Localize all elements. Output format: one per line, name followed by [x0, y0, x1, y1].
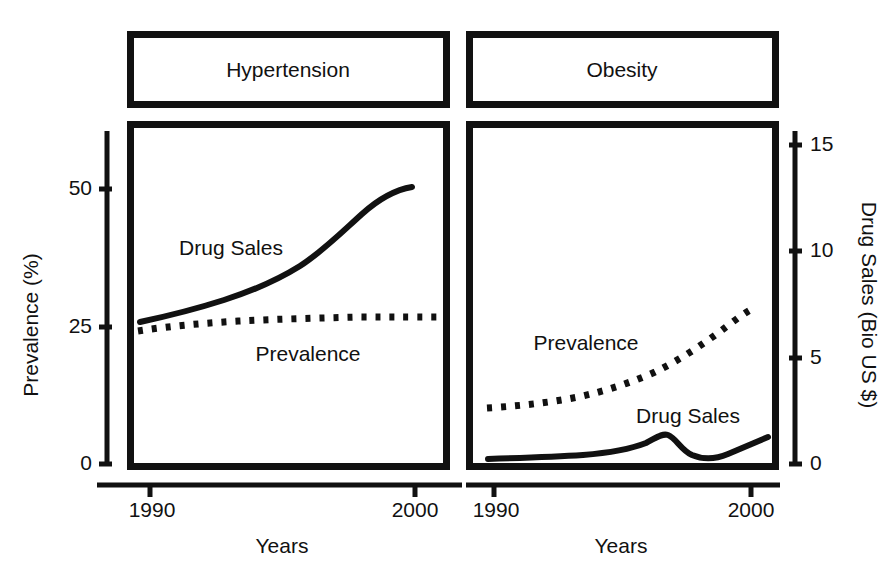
panel-obesity: Obesity 15 10 5 0 Drug Sales (Bio US $) … — [466, 35, 881, 558]
x-axis-title-obesity: Years — [595, 534, 648, 557]
series-annotation-drug-sales-obesity: Drug Sales — [636, 404, 740, 427]
series-annotation-prevalence-obesity: Prevalence — [533, 331, 638, 354]
x-axis-title-hypertension: Years — [256, 534, 309, 557]
panel-title-hypertension: Hypertension — [226, 58, 350, 81]
plot-frame-hypertension — [131, 125, 447, 467]
x-tick-label-1990-right: 1990 — [473, 498, 520, 521]
series-annotation-prevalence-hypertension: Prevalence — [255, 342, 360, 365]
panel-hypertension: Hypertension 50 25 0 Prevalence (%) 1990… — [19, 35, 462, 558]
y-tick-label-50: 50 — [69, 176, 92, 199]
y-axis-title-left: Prevalence (%) — [19, 253, 42, 397]
y-tick-label-10: 10 — [810, 238, 833, 261]
y-tick-label-5: 5 — [810, 345, 822, 368]
y-tick-label-15: 15 — [810, 132, 833, 155]
x-tick-label-2000-left: 2000 — [392, 498, 439, 521]
y-tick-label-0: 0 — [80, 451, 92, 474]
y-axis-title-right: Drug Sales (Bio US $) — [858, 202, 881, 409]
two-panel-line-chart-figure: Hypertension 50 25 0 Prevalence (%) 1990… — [0, 0, 889, 583]
y-tick-label-0-right: 0 — [810, 451, 822, 474]
x-tick-label-1990-left: 1990 — [129, 498, 176, 521]
panel-title-obesity: Obesity — [586, 58, 658, 81]
series-annotation-drug-sales-hypertension: Drug Sales — [179, 236, 283, 259]
y-tick-label-25: 25 — [69, 314, 92, 337]
x-tick-label-2000-right: 2000 — [728, 498, 775, 521]
